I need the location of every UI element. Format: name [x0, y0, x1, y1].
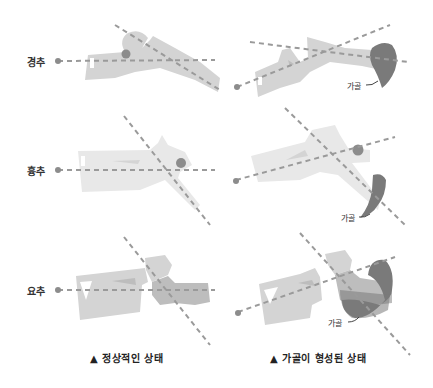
callus-callout-thoracic: 가골: [341, 212, 355, 223]
callus-callout-lumbar: 가골: [328, 317, 342, 328]
thoracic-normal: [55, 116, 215, 225]
row-label-cervical: 경추: [27, 54, 45, 69]
caption-normal: ▲ 정상적인 상태: [90, 350, 163, 365]
thoracic-callus: [233, 108, 405, 225]
cervical-normal: [55, 25, 220, 92]
caption-callus: ▲ 가골이 형성된 상태: [270, 350, 366, 365]
spine-diagram: .dash { stroke: #9a9a9a; stroke-width: 2…: [0, 0, 433, 388]
lumbar-callus: [235, 233, 410, 355]
cervical-callus: [234, 25, 408, 97]
row-label-thoracic: 흉추: [27, 163, 45, 178]
row-label-lumbar: 요추: [27, 283, 45, 298]
callus-callout-cervical: 가골: [347, 80, 361, 91]
lumbar-normal: [55, 237, 215, 345]
